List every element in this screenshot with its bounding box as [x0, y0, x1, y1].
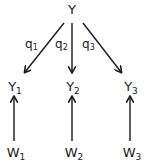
node-y-base: Y: [68, 2, 76, 17]
node-y3: Y3: [124, 80, 138, 93]
edge-label-q2: q2: [55, 38, 68, 50]
node-w3: W3: [123, 146, 142, 159]
node-w2: W2: [65, 146, 84, 159]
node-y1: Y1: [8, 80, 22, 93]
node-y: Y: [68, 3, 76, 16]
edge-label-q3: q3: [82, 38, 95, 50]
node-w1: W1: [7, 146, 26, 159]
edge-label-q1: q1: [25, 38, 38, 50]
node-y2: Y2: [66, 80, 80, 93]
